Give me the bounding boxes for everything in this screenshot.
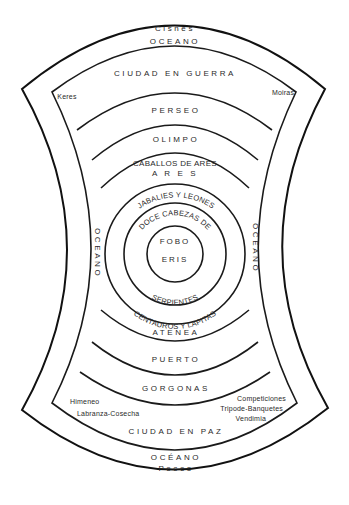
labranza-cosecha-label: Labranza-Cosecha (77, 410, 139, 417)
eris-label: ERIS (162, 255, 189, 264)
moiras-label: Moiras (272, 89, 295, 96)
peces-label: Peces (158, 464, 193, 473)
puerto-label: PUERTO (152, 355, 201, 364)
tripode-banquetes-label: Tripode-Banquetes (220, 405, 283, 413)
keres-label: Keres (57, 93, 77, 100)
oceano-left-label: OCEANO (93, 228, 102, 278)
serpientes-label: SERPIENTES (150, 292, 199, 307)
doce-cabezas-label: DOCE CABEZAS DE (137, 208, 213, 231)
oceano-top-label: OCEANO (150, 37, 200, 46)
olimpo-label: OLIMPO (153, 135, 200, 144)
ring-middle-circle (124, 203, 226, 305)
ciudad-paz-label: CIUDAD EN PAZ (129, 427, 224, 436)
ares-label: A R E S (152, 169, 198, 178)
perseo-label: PERSEO (152, 106, 201, 115)
caballos-ares-label: CABALLOS DE ARES (133, 159, 217, 168)
vendimia-label: Vendimia (236, 415, 266, 422)
shield-diagram: Cisnes OCEANO OCEANO OCEANO OCÉANO Peces… (0, 0, 349, 505)
jabalies-leones-label: JABALIES Y LEONES (136, 190, 217, 210)
fobo-label: FOBO (160, 237, 191, 246)
competiciones-label: Competiciones (237, 395, 286, 403)
ring-inner-circle (147, 226, 203, 282)
cisnes-label: Cisnes (155, 24, 195, 33)
atenea-label: ATENEA (152, 328, 199, 337)
ciudad-guerra-label: CIUDAD EN GUERRA (114, 69, 236, 78)
oceano-bottom-label: OCÉANO (151, 453, 201, 462)
himeneo-label: Himeneo (70, 398, 99, 405)
oceano-right-label: OCEANO (251, 223, 260, 273)
gorgonas-label: GORGONAS (142, 384, 210, 393)
